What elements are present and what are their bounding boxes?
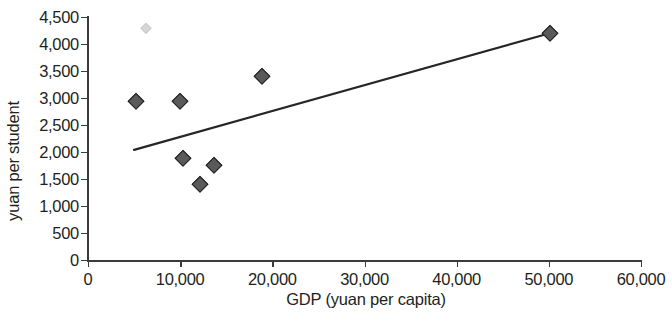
y-tick-label: 4,000 xyxy=(39,35,79,54)
x-tick-label: 30,000 xyxy=(340,270,389,289)
x-tick xyxy=(365,260,366,267)
x-tick-label: 50,000 xyxy=(524,270,573,289)
y-tick xyxy=(81,233,88,234)
x-tick-label: 20,000 xyxy=(248,270,297,289)
y-tick xyxy=(81,98,88,99)
x-tick xyxy=(549,260,550,267)
y-tick xyxy=(81,44,88,45)
x-tick xyxy=(180,260,181,267)
y-tick xyxy=(81,152,88,153)
x-tick-label: 0 xyxy=(84,270,93,289)
y-tick-label: 3,000 xyxy=(39,89,79,108)
x-tick xyxy=(88,260,89,267)
y-tick-label: 500 xyxy=(52,224,79,243)
y-tick xyxy=(81,125,88,126)
x-tick xyxy=(641,260,642,267)
y-tick-label: 3,500 xyxy=(39,62,79,81)
y-tick-label: 2,000 xyxy=(39,143,79,162)
y-axis-label: yuan per student xyxy=(0,0,26,322)
y-tick xyxy=(81,260,88,261)
y-tick-label: 1,000 xyxy=(39,197,79,216)
x-tick xyxy=(457,260,458,267)
y-tick xyxy=(81,206,88,207)
y-tick-label: 1,500 xyxy=(39,170,79,189)
y-tick-label: 2,500 xyxy=(39,116,79,135)
trend-line xyxy=(88,17,641,260)
y-tick xyxy=(81,17,88,18)
y-tick-label: 4,500 xyxy=(39,8,79,27)
x-tick xyxy=(272,260,273,267)
x-tick-label: 60,000 xyxy=(617,270,666,289)
x-axis-label: GDP (yuan per capita) xyxy=(88,290,644,309)
plot-area: 05001,0001,5002,0002,5003,0003,5004,0004… xyxy=(88,17,641,260)
x-tick-label: 40,000 xyxy=(432,270,481,289)
y-tick xyxy=(81,71,88,72)
y-tick xyxy=(81,179,88,180)
y-tick-label: 0 xyxy=(70,251,79,270)
scatter-chart-figure: yuan per student 05001,0001,5002,0002,50… xyxy=(0,0,672,322)
x-tick-label: 10,000 xyxy=(156,270,205,289)
